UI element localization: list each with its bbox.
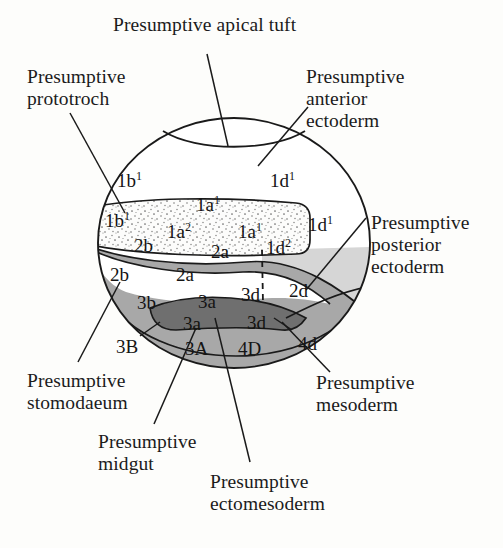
callout-apical-tuft: Presumptive apical tuft xyxy=(113,14,296,36)
cell-label-c-4d: 4d xyxy=(298,334,317,353)
cell-label-base: 2a xyxy=(211,241,229,262)
callout-stomodaeum: Presumptive stomodaeum xyxy=(27,370,128,414)
cell-label-c-1a1-upper: 1a1 xyxy=(196,195,220,214)
cell-label-superscript: 1 xyxy=(256,220,262,234)
callout-ectomesoderm: Presumptive ectomesoderm xyxy=(210,471,325,515)
cell-label-c-2b-band: 2b xyxy=(134,236,153,255)
cell-label-c-2b-gray: 2b xyxy=(110,265,129,284)
cell-label-base: 1a xyxy=(196,194,214,215)
cell-label-base: 1d xyxy=(270,170,289,191)
cell-label-c-3d-white: 3d xyxy=(241,285,260,304)
cell-label-superscript: 1 xyxy=(136,169,142,183)
callout-mesoderm: Presumptive mesoderm xyxy=(316,372,415,416)
cell-label-base: 3a xyxy=(198,291,216,312)
cell-label-c-3B: 3B xyxy=(116,337,138,356)
cell-label-c-1a2-band: 1a2 xyxy=(167,222,191,241)
cell-label-base: 1d xyxy=(266,237,285,258)
cell-label-c-3a-dark: 3a xyxy=(183,314,201,333)
cell-label-base: 3a xyxy=(183,313,201,334)
cell-label-c-3d-dark: 3d xyxy=(247,313,266,332)
leader-prototroch xyxy=(70,113,125,213)
cell-label-c-1d2-band: 1d2 xyxy=(266,238,291,257)
cell-label-base: 2b xyxy=(110,264,129,285)
cell-label-base: 1d xyxy=(308,214,327,235)
cell-label-c-4D: 4D xyxy=(238,339,261,358)
cell-label-c-1b1-band: 1b1 xyxy=(105,211,130,230)
cell-label-base: 4d xyxy=(298,333,317,354)
cell-label-base: 3b xyxy=(137,292,156,313)
cell-label-base: 3d xyxy=(247,312,266,333)
cell-label-c-2a-band: 2a xyxy=(211,242,229,261)
cell-label-base: 3B xyxy=(116,336,138,357)
cell-label-superscript: 1 xyxy=(289,169,295,183)
cell-label-superscript: 1 xyxy=(214,193,220,207)
callout-midgut: Presumptive midgut xyxy=(98,431,197,475)
cell-label-c-3A: 3A xyxy=(185,339,208,358)
cell-label-base: 1a xyxy=(167,221,185,242)
callout-anterior-ectoderm: Presumptive anterior ectoderm xyxy=(306,66,405,132)
cell-label-c-3a-gray: 3a xyxy=(198,292,216,311)
cell-label-base: 2a xyxy=(176,264,194,285)
cell-label-superscript: 2 xyxy=(285,236,291,250)
callout-prototroch: Presumptive prototroch xyxy=(27,66,126,110)
cell-label-c-3b-gray: 3b xyxy=(137,293,156,312)
cell-label-base: 2b xyxy=(134,235,153,256)
cell-label-c-1b1-upper: 1b1 xyxy=(117,171,142,190)
cell-label-c-2a-white: 2a xyxy=(176,265,194,284)
cell-label-c-1d1-upper: 1d1 xyxy=(270,171,295,190)
cell-label-base: 1b xyxy=(105,210,124,231)
cell-label-c-1a1-band: 1a1 xyxy=(238,222,262,241)
cell-label-base: 1a xyxy=(238,221,256,242)
cell-label-base: 4D xyxy=(238,338,261,359)
cell-label-base: 2d xyxy=(289,280,308,301)
cell-label-superscript: 1 xyxy=(124,209,130,223)
cell-label-superscript: 2 xyxy=(185,220,191,234)
leader-stomodaeum xyxy=(78,282,120,362)
cell-label-c-2d-light: 2d xyxy=(289,281,308,300)
figure-canvas: Presumptive apical tuftPresumptive proto… xyxy=(0,0,503,548)
cell-label-base: 3A xyxy=(185,338,208,359)
cell-label-superscript: 1 xyxy=(327,213,333,227)
cell-label-base: 3d xyxy=(241,284,260,305)
callout-posterior-ectoderm: Presumptive posterior ectoderm xyxy=(371,212,470,278)
cell-label-c-1d1-band: 1d1 xyxy=(308,215,333,234)
cell-label-base: 1b xyxy=(117,170,136,191)
